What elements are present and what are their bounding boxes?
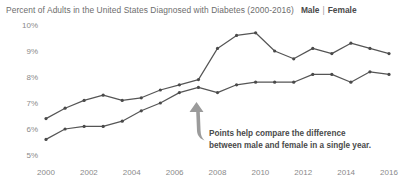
data-point-marker[interactable] [121,99,124,102]
data-point-marker[interactable] [178,91,181,94]
data-point-marker[interactable] [63,107,66,110]
data-point-marker[interactable] [311,73,314,76]
data-point-marker[interactable] [273,81,276,84]
data-point-marker[interactable] [121,120,124,123]
data-point-marker[interactable] [102,125,105,128]
annotation-callout: Points help compare the difference betwe… [209,128,371,152]
annotation-line-1: Points help compare the difference [209,128,371,140]
data-point-marker[interactable] [330,73,333,76]
data-point-marker[interactable] [159,88,162,91]
data-point-marker[interactable] [44,117,47,120]
x-axis-tick-label: 2006 [166,168,184,177]
x-axis-tick-label: 2010 [251,168,269,177]
data-point-marker[interactable] [349,42,352,45]
annotation-line-2: between male and female in a single year… [209,140,371,152]
data-point-marker[interactable] [330,52,333,55]
data-point-marker[interactable] [254,31,257,34]
series-line-male [46,33,389,119]
x-axis-tick-label: 2016 [380,168,398,177]
data-point-marker[interactable] [235,83,238,86]
data-point-marker[interactable] [178,83,181,86]
data-point-marker[interactable] [292,57,295,60]
x-axis-tick-label: 2004 [123,168,141,177]
data-point-marker[interactable] [63,127,66,130]
x-axis-tick-label: 2014 [337,168,355,177]
data-point-marker[interactable] [216,91,219,94]
data-point-marker[interactable] [140,109,143,112]
data-point-marker[interactable] [311,47,314,50]
data-point-marker[interactable] [102,94,105,97]
data-point-marker[interactable] [349,81,352,84]
data-point-marker[interactable] [140,96,143,99]
x-axis-tick-label: 2008 [209,168,227,177]
data-point-marker[interactable] [235,34,238,37]
data-point-marker[interactable] [197,78,200,81]
data-point-marker[interactable] [273,49,276,52]
data-point-marker[interactable] [83,99,86,102]
plot-area [0,0,403,187]
data-point-marker[interactable] [387,52,390,55]
data-point-marker[interactable] [254,81,257,84]
data-point-marker[interactable] [44,138,47,141]
data-point-marker[interactable] [159,101,162,104]
x-axis-tick-label: 2002 [80,168,98,177]
diabetes-line-chart: Percent of Adults in the United States D… [0,0,403,187]
data-point-marker[interactable] [368,47,371,50]
data-point-marker[interactable] [197,86,200,89]
data-point-marker[interactable] [387,73,390,76]
up-arrow-icon [190,102,205,141]
data-point-marker[interactable] [216,47,219,50]
data-point-marker[interactable] [292,81,295,84]
data-point-marker[interactable] [368,70,371,73]
data-point-marker[interactable] [83,125,86,128]
x-axis-tick-label: 2000 [37,168,55,177]
x-axis-tick-label: 2012 [294,168,312,177]
